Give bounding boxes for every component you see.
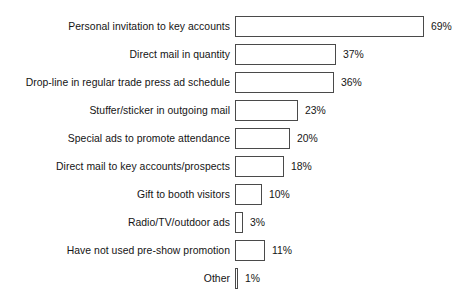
bar bbox=[235, 100, 298, 121]
chart-row: Special ads to promote attendance20% bbox=[0, 128, 461, 156]
bar-category-label: Radio/TV/outdoor ads bbox=[128, 212, 230, 233]
bar-value-label: 36% bbox=[341, 72, 362, 93]
pre-show-promotion-bar-chart: Personal invitation to key accounts69%Di… bbox=[0, 0, 461, 290]
bar-category-label: Other bbox=[204, 268, 230, 289]
bar bbox=[235, 240, 265, 261]
chart-row: Drop-line in regular trade press ad sche… bbox=[0, 72, 461, 100]
chart-row: Have not used pre-show promotion11% bbox=[0, 240, 461, 268]
bar-category-label: Special ads to promote attendance bbox=[68, 128, 230, 149]
bar-category-label: Stuffer/sticker in outgoing mail bbox=[89, 100, 230, 121]
bar-value-label: 69% bbox=[431, 16, 452, 37]
bar bbox=[235, 72, 334, 93]
bar bbox=[235, 128, 290, 149]
bar-value-label: 1% bbox=[245, 268, 260, 289]
bar bbox=[235, 156, 284, 177]
bar-value-label: 23% bbox=[305, 100, 326, 121]
chart-rows: Personal invitation to key accounts69%Di… bbox=[0, 16, 461, 290]
bar-value-label: 11% bbox=[272, 240, 292, 261]
bar-category-label: Drop-line in regular trade press ad sche… bbox=[26, 72, 230, 93]
chart-row: Gift to booth visitors10% bbox=[0, 184, 461, 212]
chart-row: Stuffer/sticker in outgoing mail23% bbox=[0, 100, 461, 128]
bar-value-label: 18% bbox=[291, 156, 312, 177]
chart-row: Direct mail in quantity37% bbox=[0, 44, 461, 72]
bar-value-label: 3% bbox=[250, 212, 265, 233]
bar-category-label: Direct mail to key accounts/prospects bbox=[56, 156, 230, 177]
cut-off-title-sliver bbox=[0, 0, 461, 5]
bar bbox=[235, 184, 262, 205]
bar-value-label: 20% bbox=[297, 128, 318, 149]
chart-row: Radio/TV/outdoor ads3% bbox=[0, 212, 461, 240]
bar bbox=[235, 16, 424, 37]
chart-row: Other1% bbox=[0, 268, 461, 290]
bar-value-label: 37% bbox=[343, 44, 364, 65]
bar bbox=[235, 212, 243, 233]
bar-category-label: Have not used pre-show promotion bbox=[67, 240, 230, 261]
bar bbox=[235, 44, 336, 65]
bar-category-label: Direct mail in quantity bbox=[130, 44, 230, 65]
bar-category-label: Gift to booth visitors bbox=[137, 184, 230, 205]
chart-row: Personal invitation to key accounts69% bbox=[0, 16, 461, 44]
chart-row: Direct mail to key accounts/prospects18% bbox=[0, 156, 461, 184]
bar bbox=[235, 268, 238, 289]
bar-category-label: Personal invitation to key accounts bbox=[68, 16, 230, 37]
bar-value-label: 10% bbox=[269, 184, 290, 205]
